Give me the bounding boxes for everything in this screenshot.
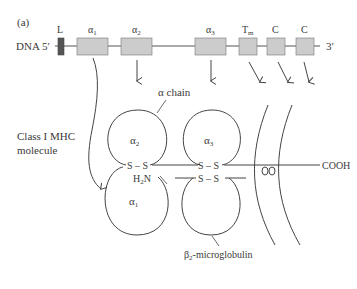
c-terminus-label: COOH: [322, 160, 350, 171]
panel-label: (a): [17, 16, 30, 29]
exon-transmembrane: [239, 38, 257, 55]
exon-label-alpha2: α2: [132, 24, 141, 37]
molecule-title-line2: molecule: [17, 144, 57, 156]
exon-label-c1: C: [272, 24, 279, 35]
exon-cytoplasmic-1: [267, 38, 285, 55]
arrow-c2-icon: [304, 62, 309, 82]
exon-leader: [58, 38, 64, 55]
disulfide-alpha3: S – S: [198, 160, 219, 171]
domain-alpha3: [183, 110, 240, 165]
dna-gene-map: DNA 5′ 3′ L α1 α2 α3 Tm C C: [16, 24, 334, 55]
arrow-tm-icon: [249, 62, 260, 82]
beta2m-leader-line: [212, 236, 219, 246]
alpha-chain-label: α chain: [158, 86, 191, 98]
domain-label-alpha2: α2: [130, 134, 140, 148]
exon-alpha3: [195, 38, 226, 55]
disulfide-alpha2: S – S: [127, 160, 148, 171]
molecule-title-line1: Class I MHC: [17, 130, 75, 142]
alpha-chain-leader-line: [157, 100, 166, 113]
exon-label-alpha1: α1: [88, 24, 97, 37]
tm-coil-1: [262, 167, 268, 175]
exon-label-alpha3: α3: [206, 24, 215, 37]
exon-label-leader: L: [57, 24, 63, 35]
domain-beta2-microglobulin: [182, 178, 240, 235]
arrow-alpha1-icon: [89, 58, 101, 189]
mhc-class-i-diagram: (a) DNA 5′ 3′ L α1 α2 α3 Tm C C: [0, 0, 357, 289]
dna-5prime-label: DNA 5′: [16, 40, 50, 52]
exon-label-tm: Tm: [242, 24, 254, 37]
exon-label-c2: C: [301, 24, 308, 35]
n-terminus-label: H2N: [133, 173, 151, 186]
dna-3prime-label: 3′: [326, 40, 334, 52]
exon-cytoplasmic-2: [296, 38, 314, 55]
exon-alpha2: [121, 38, 152, 55]
disulfide-beta2m: S – S: [198, 173, 219, 184]
exon-alpha1: [77, 38, 108, 55]
tm-coil-2: [269, 167, 275, 175]
domain-label-alpha1: α1: [129, 195, 139, 209]
domain-label-alpha3: α3: [204, 134, 214, 148]
membrane-inner-leaflet: [279, 105, 300, 245]
arrow-c1-icon: [278, 62, 288, 82]
domain-alpha2: [108, 110, 167, 165]
beta2m-label: β2-microglobulin: [184, 249, 253, 262]
